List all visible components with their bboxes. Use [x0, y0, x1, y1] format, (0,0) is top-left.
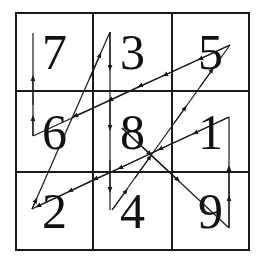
cell-number: 3 [94, 27, 171, 77]
magic-square-diagram: 7 3 5 6 8 1 2 4 9 [0, 0, 262, 265]
cell-r3c1: 2 [17, 173, 94, 249]
cell-number: 5 [173, 27, 248, 77]
cell-r1c3: 5 [173, 14, 248, 92]
cell-number: 7 [17, 27, 92, 77]
cell-number: 1 [173, 107, 248, 157]
cell-r1c2: 3 [94, 14, 173, 92]
cell-r2c3: 1 [173, 92, 248, 173]
cell-r1c1: 7 [17, 14, 94, 92]
cell-r2c2: 8 [94, 92, 173, 173]
cell-r2c1: 6 [17, 92, 94, 173]
cell-number: 9 [173, 186, 248, 236]
cell-number: 4 [94, 186, 171, 236]
cell-number: 2 [17, 186, 92, 236]
grid-3x3: 7 3 5 6 8 1 2 4 9 [15, 12, 250, 251]
cell-r3c2: 4 [94, 173, 173, 249]
cell-r3c3: 9 [173, 173, 248, 249]
cell-number: 6 [17, 107, 92, 157]
cell-number: 8 [94, 107, 171, 157]
